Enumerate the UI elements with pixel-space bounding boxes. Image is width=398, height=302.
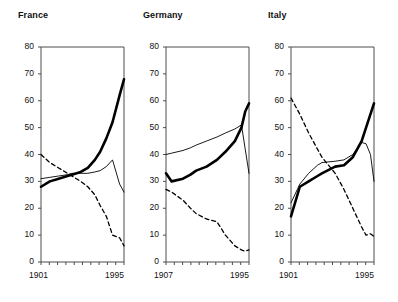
y-tick-label: 20 xyxy=(12,202,34,212)
series-line-dashed xyxy=(41,155,124,246)
y-tick-label: 40 xyxy=(137,149,159,159)
y-tick-label: 10 xyxy=(137,229,159,239)
y-tick-label: 0 xyxy=(262,256,284,266)
chart-figure: France 0102030405060708019011995 Germany… xyxy=(0,0,398,302)
y-tick-label: 70 xyxy=(262,68,284,78)
x-tick-label-start: 1901 xyxy=(29,270,48,280)
axis-frame xyxy=(166,47,249,262)
y-tick-label: 0 xyxy=(137,256,159,266)
series-line-thick-solid xyxy=(291,103,374,216)
y-tick-label: 80 xyxy=(262,41,284,51)
y-tick-label: 30 xyxy=(262,175,284,185)
y-tick-label: 70 xyxy=(12,68,34,78)
panel-france: France 0102030405060708019011995 xyxy=(0,0,133,302)
panel-germany: Germany 0102030405060708019071995 xyxy=(125,0,258,302)
y-tick-label: 70 xyxy=(137,68,159,78)
y-tick-label: 50 xyxy=(262,122,284,132)
y-tick-label: 10 xyxy=(12,229,34,239)
y-tick-label: 60 xyxy=(12,95,34,105)
panel-italy: Italy 0102030405060708019011995 xyxy=(250,0,383,302)
x-tick-label-end: 1995 xyxy=(105,270,124,280)
y-tick-label: 80 xyxy=(12,41,34,51)
series-line-thick-solid xyxy=(41,79,124,187)
y-tick-label: 60 xyxy=(262,95,284,105)
series-line-thin-solid xyxy=(291,142,374,202)
x-tick-label-end: 1995 xyxy=(355,270,374,280)
y-tick-label: 40 xyxy=(12,149,34,159)
series-line-dashed xyxy=(166,189,249,251)
y-tick-label: 50 xyxy=(137,122,159,132)
series-line-thick-solid xyxy=(166,103,249,181)
x-tick-label-end: 1995 xyxy=(230,270,249,280)
axis-frame xyxy=(291,47,374,262)
axis-frame xyxy=(41,47,124,262)
y-tick-label: 60 xyxy=(137,95,159,105)
y-tick-label: 20 xyxy=(262,202,284,212)
x-tick-label-start: 1907 xyxy=(154,270,173,280)
y-tick-label: 30 xyxy=(137,175,159,185)
y-tick-label: 80 xyxy=(137,41,159,51)
y-tick-label: 10 xyxy=(262,229,284,239)
y-tick-label: 40 xyxy=(262,149,284,159)
y-tick-label: 30 xyxy=(12,175,34,185)
y-tick-label: 20 xyxy=(137,202,159,212)
x-tick-label-start: 1901 xyxy=(279,270,298,280)
y-tick-label: 50 xyxy=(12,122,34,132)
y-tick-label: 0 xyxy=(12,256,34,266)
